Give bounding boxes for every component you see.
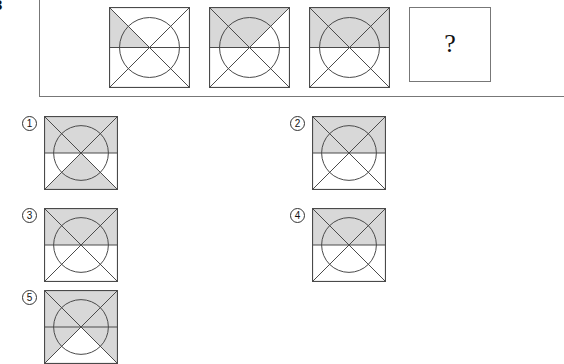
option-label-2[interactable]: 2 (290, 116, 305, 131)
option-figure-3[interactable] (44, 208, 118, 282)
answer-placeholder-box: ? (409, 7, 491, 82)
option-diagram-2 (312, 116, 386, 190)
question-number: 3 (0, 0, 2, 13)
stem-figure-1 (109, 7, 190, 88)
option-figure-1[interactable] (44, 116, 118, 190)
stem-figure-2 (209, 7, 290, 88)
option-label-5[interactable]: 5 (22, 290, 37, 305)
stem-figure-3 (309, 7, 390, 88)
option-label-3[interactable]: 3 (22, 208, 37, 223)
stem-cell-3 (309, 7, 390, 88)
option-diagram-1 (44, 116, 118, 190)
option-figure-2[interactable] (312, 116, 386, 190)
question-mark-glyph: ? (444, 31, 456, 59)
option-label-4[interactable]: 4 (290, 208, 305, 223)
option-diagram-5 (44, 290, 118, 364)
option-label-1[interactable]: 1 (22, 116, 37, 131)
option-diagram-3 (44, 208, 118, 282)
stem-cell-2 (209, 7, 290, 88)
stem-cell-1 (109, 7, 190, 88)
option-figure-4[interactable] (312, 208, 386, 282)
shaded-region-bottom-middle-triangle (44, 153, 118, 190)
option-figure-5[interactable] (44, 290, 118, 364)
option-diagram-4 (312, 208, 386, 282)
